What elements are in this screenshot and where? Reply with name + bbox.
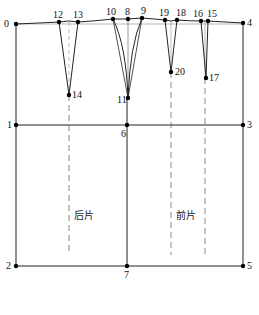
- point-label-14: 14: [72, 90, 82, 100]
- point-8: [126, 17, 130, 21]
- point-6: [125, 123, 129, 127]
- point-10: [111, 17, 115, 21]
- point-18: [175, 18, 179, 22]
- point-9: [140, 16, 144, 20]
- point-19: [163, 18, 167, 22]
- point-3: [241, 123, 245, 127]
- point-0: [14, 22, 18, 26]
- front-dart-2: [201, 21, 208, 78]
- point-20: [169, 70, 173, 74]
- pattern-diagram: 0 1 2 3 4 5 6 7 8 9 10 11 12 13 14 15 16…: [0, 0, 259, 315]
- point-4: [241, 21, 245, 25]
- front-piece-label: 前片: [176, 211, 196, 221]
- point-label-5: 5: [247, 261, 252, 271]
- point-14: [67, 93, 71, 97]
- point-label-17: 17: [209, 73, 219, 83]
- side-seam-back-straight: [113, 19, 128, 98]
- point-2: [14, 264, 18, 268]
- point-label-10: 10: [106, 7, 116, 17]
- pattern-drawing: [0, 0, 259, 315]
- point-label-15: 15: [207, 9, 217, 19]
- point-label-8: 8: [125, 7, 130, 17]
- point-label-13: 13: [73, 10, 83, 20]
- point-15: [206, 19, 210, 23]
- point-label-7: 7: [124, 270, 129, 280]
- point-label-4: 4: [247, 18, 252, 28]
- side-seam-front-straight: [128, 18, 142, 98]
- point-label-12: 12: [53, 10, 63, 20]
- point-1: [14, 123, 18, 127]
- point-12: [57, 20, 61, 24]
- point-7: [125, 264, 129, 268]
- point-label-18: 18: [176, 8, 186, 18]
- back-piece-label: 后片: [74, 211, 94, 221]
- point-label-11: 11: [117, 95, 127, 105]
- point-label-1: 1: [7, 120, 12, 130]
- point-17: [204, 76, 208, 80]
- point-label-19: 19: [159, 8, 169, 18]
- point-5: [241, 264, 245, 268]
- point-label-0: 0: [4, 19, 9, 29]
- point-label-16: 16: [193, 9, 203, 19]
- point-label-3: 3: [247, 120, 252, 130]
- point-markers: [14, 16, 245, 268]
- point-label-20: 20: [175, 67, 185, 77]
- back-dart: [59, 22, 78, 95]
- point-label-6: 6: [121, 129, 126, 139]
- point-13: [76, 20, 80, 24]
- point-16: [199, 19, 203, 23]
- point-label-9: 9: [141, 6, 146, 16]
- point-label-2: 2: [6, 261, 11, 271]
